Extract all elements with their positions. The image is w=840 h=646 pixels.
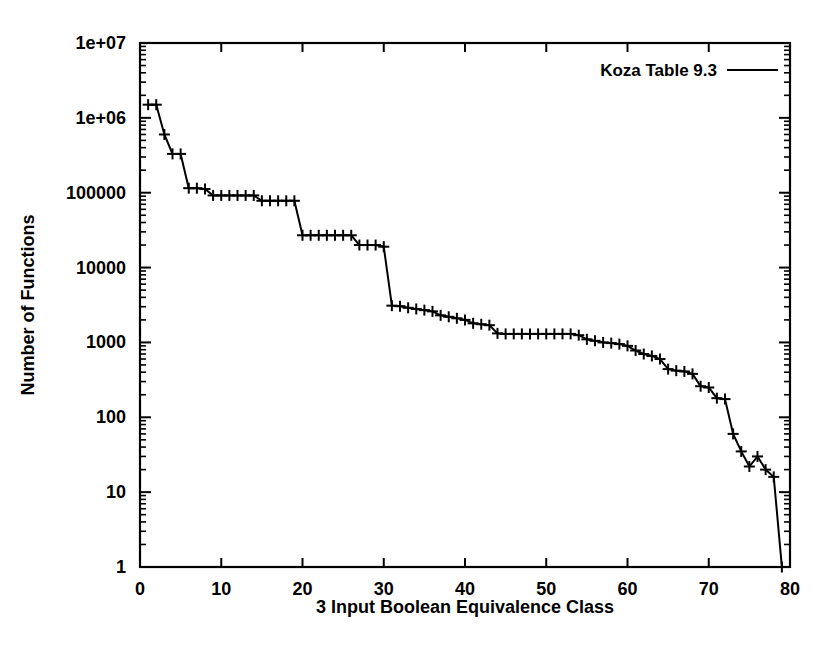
x-axis-title: 3 Input Boolean Equivalence Class	[316, 597, 614, 617]
y-tick-label: 1e+06	[75, 108, 126, 128]
x-tick-label: 20	[292, 579, 312, 599]
y-axis-tick-labels: 1101001000100001000001e+061e+07	[66, 33, 126, 577]
chart-svg: 01020304050607080 1101001000100001000001…	[0, 0, 840, 646]
y-axis-minor-ticks	[140, 46, 790, 544]
x-axis-tick-labels: 01020304050607080	[135, 579, 800, 599]
x-tick-label: 50	[536, 579, 556, 599]
chart-figure: 01020304050607080 1101001000100001000001…	[0, 0, 840, 646]
y-tick-label: 1000	[86, 332, 126, 352]
chart-legend: Koza Table 9.3	[600, 61, 778, 80]
x-tick-label: 10	[211, 579, 231, 599]
y-tick-label: 1e+07	[75, 33, 126, 53]
x-axis-ticks	[140, 43, 790, 567]
x-tick-label: 40	[455, 579, 475, 599]
y-tick-label: 10000	[76, 258, 126, 278]
y-axis-title: Number of Functions	[18, 215, 38, 396]
y-tick-label: 1	[116, 557, 126, 577]
plot-frame	[140, 43, 790, 567]
x-tick-label: 80	[780, 579, 800, 599]
x-tick-label: 70	[699, 579, 719, 599]
x-tick-label: 30	[374, 579, 394, 599]
y-tick-label: 100000	[66, 183, 126, 203]
x-tick-label: 60	[617, 579, 637, 599]
x-tick-label: 0	[135, 579, 145, 599]
legend-entry-label: Koza Table 9.3	[600, 61, 717, 80]
y-axis-ticks	[140, 43, 790, 567]
data-series-layer	[143, 99, 788, 572]
y-tick-label: 100	[96, 407, 126, 427]
data-line	[148, 105, 782, 567]
y-tick-label: 10	[106, 482, 126, 502]
